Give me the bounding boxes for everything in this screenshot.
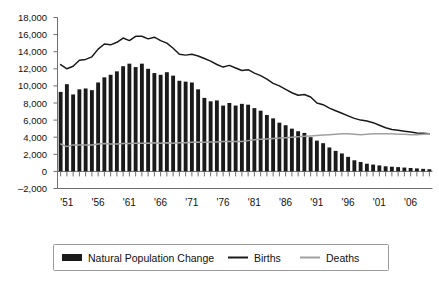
x-axis-tick-label: '96 <box>342 197 355 208</box>
bar <box>134 67 138 171</box>
bar <box>184 82 188 172</box>
bar <box>321 143 325 171</box>
bar <box>90 90 94 171</box>
bar <box>371 165 375 172</box>
bar <box>96 82 100 171</box>
legend-swatch-bar <box>62 254 82 261</box>
population-change-chart: –2,00002,0004,0006,0008,00010,00012,0001… <box>0 0 439 281</box>
x-axis-tick-label: '51 <box>60 197 73 208</box>
bar <box>71 94 75 171</box>
bar <box>240 104 244 172</box>
bar <box>159 75 163 172</box>
y-axis-tick-label: 10,000 <box>18 80 47 91</box>
bar <box>84 88 88 171</box>
bar <box>309 137 313 171</box>
bar <box>415 168 419 171</box>
y-axis-tick-label: 4,000 <box>23 132 47 143</box>
bar <box>121 66 125 171</box>
bar <box>196 89 200 171</box>
x-axis-tick-label: '01 <box>373 197 386 208</box>
bar <box>190 82 194 171</box>
x-axis-tick-label: '76 <box>217 197 230 208</box>
bar <box>221 106 225 172</box>
bar <box>271 118 275 171</box>
y-axis-tick-label: 12,000 <box>18 63 47 74</box>
x-axis-tick-label: '66 <box>154 197 167 208</box>
y-axis-tick-label: 6,000 <box>23 115 47 126</box>
bar <box>265 115 269 171</box>
bar <box>340 153 344 171</box>
bar <box>102 77 106 171</box>
bar <box>177 81 181 172</box>
bar <box>390 167 394 172</box>
bar <box>171 76 175 172</box>
bar <box>115 71 119 171</box>
bar <box>327 147 331 171</box>
bar <box>234 106 238 172</box>
legend-item-label: Natural Population Change <box>88 252 214 264</box>
y-axis-tick-label: 2,000 <box>23 149 47 160</box>
x-axis-tick-label: '91 <box>310 197 323 208</box>
bar <box>421 169 425 172</box>
bar <box>246 105 250 172</box>
y-axis-tick-label: –2,000 <box>18 183 47 194</box>
bar <box>65 84 69 171</box>
bar <box>277 123 281 172</box>
bar <box>59 92 63 172</box>
bar <box>302 133 306 171</box>
y-axis-tick-label: 16,000 <box>18 29 47 40</box>
chart-canvas: –2,00002,0004,0006,0008,00010,00012,0001… <box>0 0 439 281</box>
x-axis-tick-label: '81 <box>248 197 261 208</box>
bar <box>377 165 381 171</box>
bar <box>77 89 81 171</box>
x-axis-tick-label: '86 <box>279 197 292 208</box>
bar <box>346 157 350 172</box>
bar <box>109 75 113 172</box>
bar <box>202 98 206 172</box>
legend-item-label: Births <box>254 252 281 264</box>
bar <box>284 125 288 171</box>
bar <box>402 168 406 172</box>
bar <box>152 73 156 171</box>
y-axis-tick-label: 14,000 <box>18 46 47 57</box>
bar <box>315 141 319 172</box>
bar <box>165 72 169 171</box>
y-axis-tick-label: 0 <box>42 166 47 177</box>
x-axis-tick-label: '56 <box>92 197 105 208</box>
bar <box>146 69 150 172</box>
y-axis-tick-label: 8,000 <box>23 98 47 109</box>
bar <box>334 151 338 172</box>
legend-item-label: Deaths <box>326 252 359 264</box>
bar <box>359 162 363 171</box>
y-axis-tick-label: 18,000 <box>18 12 47 23</box>
x-axis-tick-label: '06 <box>404 197 417 208</box>
bar <box>352 160 356 171</box>
bar <box>215 100 219 171</box>
bar <box>227 103 231 171</box>
bar <box>409 168 413 171</box>
bar <box>127 64 131 172</box>
bar <box>396 167 400 171</box>
bar <box>259 111 263 172</box>
bar <box>140 64 144 172</box>
x-axis-tick-label: '71 <box>185 197 198 208</box>
bar <box>290 129 294 172</box>
x-axis-tick-label: '61 <box>123 197 136 208</box>
bar <box>427 169 431 171</box>
bar <box>365 164 369 172</box>
bar <box>384 166 388 171</box>
bar <box>209 101 213 171</box>
